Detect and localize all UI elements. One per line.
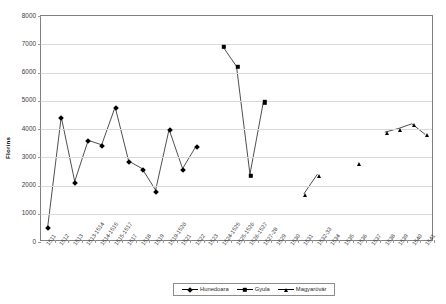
y-tick-mark [38, 73, 41, 74]
y-tick-mark [38, 186, 41, 187]
data-point-hunedoara-1519-1520 [167, 128, 173, 134]
data-point-hunedoara-1518 [140, 167, 146, 173]
gridline [41, 214, 432, 215]
data-point-hunedoara-1512 [58, 115, 64, 121]
y-tick-label: 2000 [10, 181, 36, 188]
x-axis-tick-labels: 1511151215131513-15141514-15151515-15171… [0, 243, 446, 283]
gridline [41, 44, 432, 45]
legend-marker-triangle-icon [278, 286, 294, 294]
legend-label: Hunedoara [200, 286, 229, 293]
data-point-magyarvr-1532-33 [317, 174, 321, 178]
data-point-hunedoara-1515-1517 [113, 105, 119, 111]
data-point-hunedoara-1514-1515 [99, 143, 105, 149]
series-line-gyula [223, 47, 263, 174]
legend-marker-square-icon [237, 286, 253, 294]
y-tick-label: 8000 [10, 12, 36, 19]
y-tick-mark [38, 101, 41, 102]
gridline [41, 186, 432, 187]
data-point-hunedoara-1513-1514 [86, 139, 92, 145]
chart-container: Florins 01000200030004000500060007000800… [0, 0, 446, 304]
y-tick-label: 6000 [10, 68, 36, 75]
legend-marker-diamond-icon [182, 286, 198, 294]
data-point-magyarvr-1539 [398, 128, 402, 132]
legend-label: Gyula [255, 286, 270, 293]
data-point-hunedoara-1522 [194, 145, 200, 151]
data-point-hunedoara-1519 [153, 189, 159, 195]
y-tick-label: 5000 [10, 96, 36, 103]
data-point-hunedoara-1517 [126, 159, 132, 165]
data-point-magyarvr-1541 [425, 133, 429, 137]
series-line-paths [41, 16, 432, 240]
y-tick-label: 7000 [10, 40, 36, 47]
legend-entry-magyarvr: Magyaróvár [278, 286, 327, 294]
y-tick-mark [38, 44, 41, 45]
plot-area [40, 15, 433, 241]
series-line-magyaróvár [304, 174, 317, 194]
gridline [41, 101, 432, 102]
gridline [41, 129, 432, 130]
series-line-hunedoara [48, 107, 196, 227]
legend-entry-gyula: Gyula [237, 286, 270, 294]
data-point-gyula-1525-1526 [235, 65, 239, 69]
y-tick-label: 3000 [10, 153, 36, 160]
data-point-magyarvr-1536 [357, 162, 361, 166]
gridline [41, 73, 432, 74]
gridline [41, 157, 432, 158]
y-tick-mark [38, 129, 41, 130]
legend-entry-hunedoara: Hunedoara [182, 286, 229, 294]
data-point-magyarvr-1538 [385, 131, 389, 135]
y-tick-label: 4000 [10, 125, 36, 132]
data-point-magyarvr-1531 [303, 193, 307, 197]
y-tick-mark [38, 16, 41, 17]
data-point-magyarvr-1540 [412, 123, 416, 127]
data-point-gyula-1526-1527 [249, 173, 253, 177]
legend-label: Magyaróvár [296, 286, 327, 293]
y-tick-mark [38, 157, 41, 158]
y-tick-mark [38, 214, 41, 215]
y-tick-label: 1000 [10, 209, 36, 216]
data-point-hunedoara-1511 [45, 226, 51, 232]
data-point-hunedoara-1521 [180, 167, 186, 173]
data-point-gyula-1527-28 [262, 100, 266, 104]
chart-legend: HunedoaraGyulaMagyaróvár [173, 283, 335, 296]
data-point-gyula-1524-1525 [222, 45, 226, 49]
